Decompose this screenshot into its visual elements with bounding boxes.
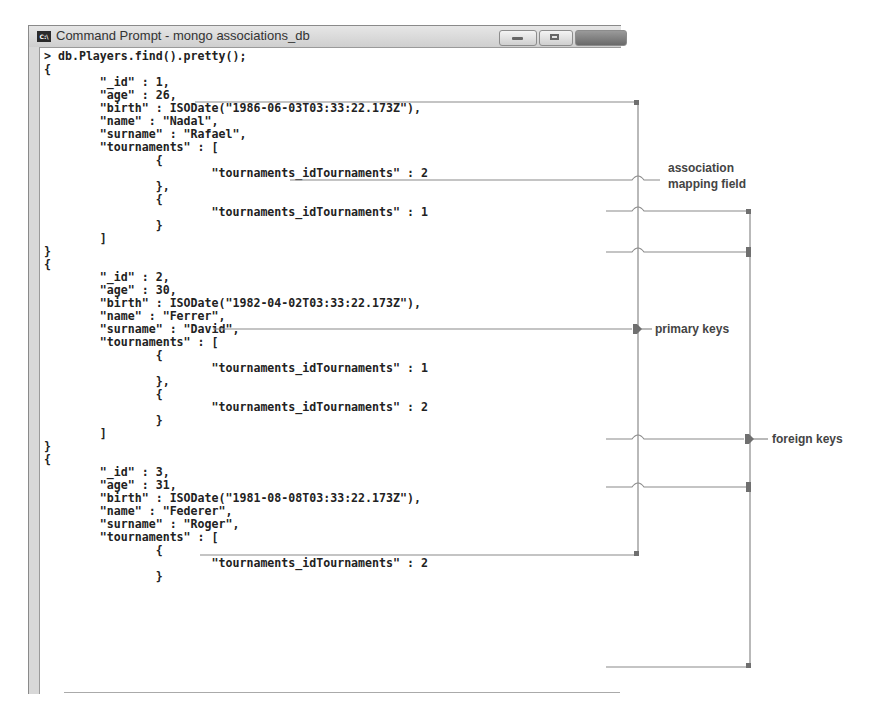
marker <box>746 663 751 668</box>
console-output[interactable]: > db.Players.find().pretty();{ "_id" : 1… <box>39 47 621 694</box>
foreign-keys-arrow-icon <box>745 434 754 444</box>
marker <box>746 209 751 214</box>
association-mapping-field-label: association mapping field <box>668 160 746 192</box>
title-bar[interactable]: C:\ Command Prompt - mongo associations_… <box>29 26 621 47</box>
console-line: } <box>44 570 428 583</box>
marker <box>634 100 639 105</box>
minimize-button[interactable] <box>499 30 537 46</box>
foreign-keys-label: foreign keys <box>772 431 843 447</box>
cmd-icon: C:\ <box>37 31 51 42</box>
primary-keys-arrow-icon <box>633 324 642 334</box>
primary-keys-label: primary keys <box>655 321 729 337</box>
maximize-button[interactable] <box>539 30 573 46</box>
horizontal-scrollbar[interactable] <box>64 692 620 693</box>
console-line: > db.Players.find().pretty(); <box>44 50 428 63</box>
console-line: ] <box>44 232 428 245</box>
marker <box>746 482 751 492</box>
marker <box>634 551 639 556</box>
maximize-icon <box>550 34 559 40</box>
console-text: > db.Players.find().pretty();{ "_id" : 1… <box>44 50 428 583</box>
console-line: } <box>44 245 428 258</box>
window-title: Command Prompt - mongo associations_db <box>56 28 310 43</box>
close-button[interactable] <box>575 30 627 46</box>
console-line: } <box>44 440 428 453</box>
label-line: mapping field <box>668 176 746 192</box>
command-prompt-window: C:\ Command Prompt - mongo associations_… <box>28 25 621 694</box>
label-line: association <box>668 160 746 176</box>
console-line: ] <box>44 427 428 440</box>
marker <box>746 247 751 257</box>
minimize-icon <box>512 37 523 40</box>
